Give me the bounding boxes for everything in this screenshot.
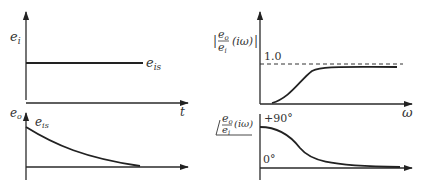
- phase-plot: eo ei (iω) +90° 0°: [216, 112, 412, 180]
- frequency-response-diagram: ei eis t eo eis | eo ei (iω) | 1.0 ω: [0, 0, 422, 194]
- phase-axis-label: eo ei (iω): [216, 112, 253, 137]
- unity-level-label: 1.0: [264, 50, 282, 63]
- eo-axis-label: eo: [10, 106, 22, 121]
- magnitude-curve: [272, 67, 397, 103]
- input-step-plot: ei eis t: [10, 12, 188, 119]
- omega-axis-label: ω: [402, 105, 413, 120]
- output-response-plot: eo eis: [10, 106, 188, 180]
- svg-text:|: |: [213, 34, 217, 48]
- ratio-denominator: ei: [218, 41, 227, 55]
- eis-step-label: eis: [146, 55, 162, 72]
- svg-text:(iω): (iω): [234, 118, 253, 129]
- zero-degree-label: 0°: [263, 153, 276, 166]
- ei-axis-label: ei: [10, 29, 21, 46]
- plus-90-degree-label: +90°: [264, 112, 293, 125]
- phase-curve: [260, 127, 400, 167]
- ratio-numerator: eo: [218, 28, 229, 42]
- t-axis-label: t: [180, 105, 185, 119]
- magnitude-plot: | eo ei (iω) | 1.0 ω: [213, 12, 413, 120]
- eis-curve-label: eis: [35, 115, 49, 130]
- svg-text:|: |: [254, 34, 258, 48]
- decay-curve: [26, 127, 140, 166]
- svg-text:(iω): (iω): [232, 35, 253, 48]
- magnitude-axis-label: | eo ei (iω) |: [213, 28, 258, 55]
